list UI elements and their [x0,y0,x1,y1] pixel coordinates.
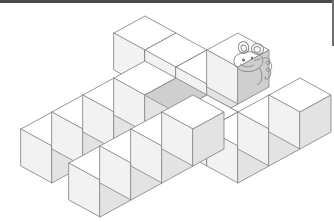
mouse-eye-icon [242,59,245,62]
isometric-cube-illustration: Isometric cube arrangement A plus-shaped… [0,0,334,222]
mouse-nose-icon [251,57,253,59]
figure-canvas: Isometric cube arrangement A plus-shaped… [0,0,334,222]
